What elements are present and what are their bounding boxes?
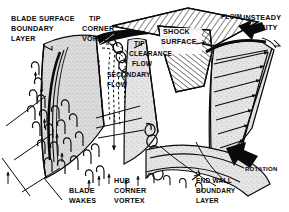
label-blade-surface-boundary-layer-line1: BLADE SURFACE — [11, 15, 75, 22]
label-hub-corner-vortex-line3: VORTEX — [114, 197, 145, 204]
label-blade-surface-boundary-layer-line2: BOUNDARY — [11, 25, 54, 32]
label-blade-wakes-line2: WAKES — [69, 197, 96, 204]
label-unsteady-velocity-line1: UNSTEADY — [240, 14, 281, 21]
label-tip-clearance-flow-line1: TIP — [134, 41, 145, 48]
label-end-wall-boundary-layer-line2: BOUNDARY — [196, 188, 235, 195]
label-tip-corner-vortex-line3: VORTEX — [82, 35, 113, 42]
label-tip-corner-vortex-line2: CORNER — [82, 25, 114, 32]
label-secondary-flow-line1: SECONDARY — [107, 72, 151, 79]
label-tip-clearance-flow-line2: CLEARANCE — [129, 51, 172, 58]
label-secondary-flow-line2: FLOW — [107, 82, 127, 89]
label-hub-corner-vortex-line2: CORNER — [114, 187, 146, 194]
label-flow: FLOW — [221, 14, 241, 21]
figure-canvas: BLADE SURFACE BOUNDARY LAYER TIP CORNER … — [0, 0, 289, 212]
label-unsteady-velocity-line2: VELOCITY — [240, 24, 278, 31]
label-blade-surface-boundary-layer-line3: LAYER — [11, 35, 36, 42]
label-tip-clearance-flow-line3: FLOW — [132, 61, 152, 68]
label-tip-corner-vortex-line1: TIP — [89, 15, 101, 22]
endwall-boundary-layer-loops — [148, 174, 202, 193]
label-shock-surface-line2: SURFACE — [161, 38, 197, 45]
label-end-wall-boundary-layer-line3: LAYER — [196, 198, 219, 205]
label-hub-corner-vortex-line1: HUB — [114, 177, 130, 184]
label-blade-wakes-line1: BLADE — [69, 187, 95, 194]
label-rotation: ROTATION — [245, 166, 278, 172]
label-shock-surface-line1: SHOCK — [163, 28, 190, 35]
label-end-wall-boundary-layer-line1: END WALL — [196, 178, 232, 185]
